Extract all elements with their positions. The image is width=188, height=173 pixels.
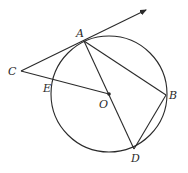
geometry-diagram: A B C D E O <box>0 0 188 173</box>
label-o: O <box>99 98 108 111</box>
segment-bd <box>134 95 166 149</box>
label-c: C <box>8 65 17 78</box>
tangent-ray-ca <box>21 10 146 71</box>
label-a: A <box>75 27 84 40</box>
label-d: D <box>130 152 140 165</box>
segment-co <box>21 71 109 94</box>
center-point-o <box>107 92 111 96</box>
label-e: E <box>42 82 51 95</box>
label-b: B <box>168 89 177 102</box>
